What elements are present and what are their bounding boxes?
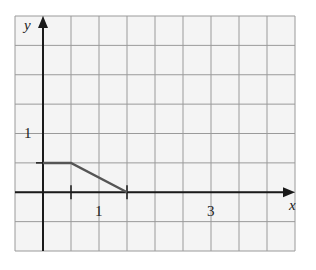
x-tick-label-1: 1 [95,203,103,219]
y-tick-label-1: 1 [24,125,32,141]
y-axis-label: y [22,17,31,33]
x-tick-label-3: 3 [207,203,215,219]
x-axis-label: x [288,197,296,213]
chart: x y 1 3 1 [0,0,316,270]
plot-area [15,16,295,251]
